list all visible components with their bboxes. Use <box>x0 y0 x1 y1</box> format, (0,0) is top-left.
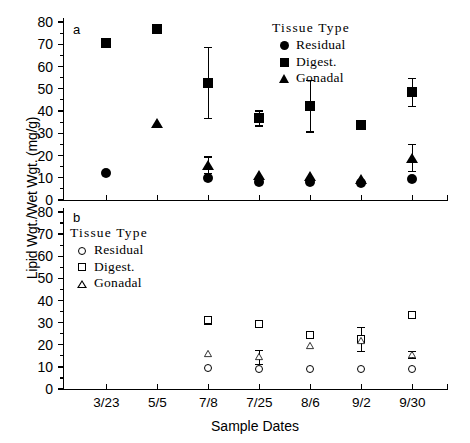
data-point-b-residual-4 <box>306 365 314 373</box>
y-minor-tick-a-55 <box>60 77 64 78</box>
data-point-a-gonadal-2 <box>203 160 213 170</box>
data-point-b-residual-2 <box>204 364 212 372</box>
y-tick-a-40 <box>58 110 64 111</box>
x-tick-b-5 <box>361 384 362 390</box>
error-cap-bottom-a-Digest.-4 <box>306 131 314 132</box>
filled-triangle-icon <box>278 73 290 85</box>
y-tick-b-80 <box>58 211 64 212</box>
data-point-a-gonadal-3 <box>254 170 264 180</box>
data-point-b-residual-6 <box>408 365 416 373</box>
legend-label-residual-a: Residual <box>296 37 346 53</box>
y-tick-label-a-30: 30 <box>19 126 53 140</box>
y-minor-tick-a-15 <box>60 166 64 167</box>
y-tick-b-40 <box>58 300 64 301</box>
y-minor-tick-b-15 <box>60 355 64 356</box>
y-tick-b-0 <box>58 388 64 389</box>
data-point-a-gonadal-6 <box>407 153 417 163</box>
error-cap-bottom-a-Digest.-3 <box>255 125 263 126</box>
y-tick-label-a-40: 40 <box>19 104 53 118</box>
y-tick-a-30 <box>58 133 64 134</box>
y-tick-b-20 <box>58 344 64 345</box>
data-point-a-gonadal-4 <box>305 171 315 181</box>
legend-title-a: Tissue Type <box>272 20 350 36</box>
x-tick-b-6 <box>412 384 413 390</box>
x-tick-a-5 <box>361 195 362 201</box>
error-cap-bottom-b-Gonadal-3 <box>255 364 263 365</box>
x-axis-label: Sample Dates <box>62 418 448 434</box>
x-tick-label-4: 8/6 <box>301 396 320 410</box>
error-cap-bottom-a-Digest.-2 <box>204 118 212 119</box>
data-point-a-gonadal-1 <box>152 118 162 128</box>
error-cap-top-a-Gonadal-6 <box>408 144 416 145</box>
y-minor-tick-b-35 <box>60 311 64 312</box>
x-tick-b-3 <box>259 384 260 390</box>
data-point-b-digest-6 <box>408 311 416 319</box>
x-tick-b-1 <box>157 384 158 390</box>
legend-item-gonadal-a: Gonadal <box>272 70 350 86</box>
y-tick-label-a-70: 70 <box>19 37 53 51</box>
y-tick-b-70 <box>58 233 64 234</box>
y-tick-a-20 <box>58 155 64 156</box>
error-cap-bottom-b-Digest.-5 <box>357 351 365 352</box>
y-tick-a-10 <box>58 177 64 178</box>
panel-a-letter: a <box>73 22 80 37</box>
data-point-a-digest-5 <box>356 120 366 130</box>
data-point-b-digest-4 <box>306 331 314 339</box>
y-tick-a-80 <box>58 21 64 22</box>
x-tick-b-2 <box>208 384 209 390</box>
y-tick-label-b-30: 30 <box>19 316 53 330</box>
data-point-a-digest-3 <box>254 113 264 123</box>
y-minor-tick-b-65 <box>60 245 64 246</box>
legend-item-digest-a: Digest. <box>272 54 350 70</box>
data-point-b-digest-2 <box>204 316 212 324</box>
data-point-b-gonadal-4 <box>306 342 314 350</box>
legend-item-residual-a: Residual <box>272 37 350 53</box>
error-cap-top-b-Digest.-5 <box>357 327 365 328</box>
y-minor-tick-b-75 <box>60 222 64 223</box>
y-minor-tick-b-45 <box>60 289 64 290</box>
legend-item-digest-b: Digest. <box>70 259 148 275</box>
y-tick-label-a-60: 60 <box>19 60 53 74</box>
error-cap-top-a-Gonadal-2 <box>204 156 212 157</box>
error-cap-top-a-Digest.-6 <box>408 78 416 79</box>
y-minor-tick-a-75 <box>60 33 64 34</box>
x-tick-label-6: 9/30 <box>399 396 425 410</box>
y-minor-tick-b-25 <box>60 333 64 334</box>
data-point-b-gonadal-2 <box>204 349 212 357</box>
error-cap-top-a-Digest.-3 <box>255 110 263 111</box>
x-tick-label-3: 7/25 <box>246 396 272 410</box>
y-tick-label-b-10: 10 <box>19 360 53 374</box>
x-tick-b-4 <box>310 384 311 390</box>
y-minor-tick-a-65 <box>60 55 64 56</box>
y-tick-label-a-10: 10 <box>19 171 53 185</box>
y-tick-label-b-0: 0 <box>19 382 53 396</box>
open-triangle-icon <box>76 278 88 290</box>
y-minor-tick-a-45 <box>60 99 64 100</box>
legend-title-b: Tissue Type <box>70 225 148 241</box>
y-tick-b-10 <box>58 366 64 367</box>
error-cap-top-a-Digest.-2 <box>204 47 212 48</box>
error-cap-top-a-Digest.-4 <box>306 80 314 81</box>
x-axis-line-a <box>63 200 448 201</box>
legend-panel-a: Tissue Type Residual Digest. Gonadal <box>272 20 350 87</box>
data-point-b-residual-5 <box>357 365 365 373</box>
error-cap-top-b-Gonadal-3 <box>255 350 263 351</box>
filled-circle-icon <box>278 40 290 52</box>
y-tick-label-b-50: 50 <box>19 271 53 285</box>
x-tick-a-6 <box>412 195 413 201</box>
y-minor-tick-b-55 <box>60 267 64 268</box>
y-tick-label-a-50: 50 <box>19 82 53 96</box>
x-tick-b-0 <box>106 384 107 390</box>
data-point-b-gonadal-5 <box>357 336 365 344</box>
x-tick-a-0 <box>106 195 107 201</box>
x-axis-end-cap-b <box>447 384 448 390</box>
x-tick-label-5: 9/2 <box>352 396 371 410</box>
y-tick-label-a-20: 20 <box>19 149 53 163</box>
x-tick-label-1: 5/5 <box>148 396 167 410</box>
y-tick-label-b-60: 60 <box>19 249 53 263</box>
y-tick-label-b-80: 80 <box>19 205 53 219</box>
x-tick-a-3 <box>259 195 260 201</box>
data-point-a-residual-2 <box>203 173 213 183</box>
data-point-a-digest-1 <box>152 24 162 34</box>
error-cap-bottom-a-Gonadal-6 <box>408 171 416 172</box>
